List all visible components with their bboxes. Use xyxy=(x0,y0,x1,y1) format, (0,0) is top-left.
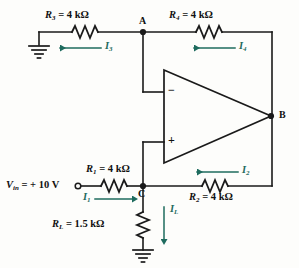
current-label-i1: I1 xyxy=(83,192,91,204)
label-r2-value: 4 kΩ xyxy=(211,191,233,202)
node-label-a: A xyxy=(139,16,146,26)
current-label-i3-sub: 3 xyxy=(109,45,113,53)
label-vin-name: V xyxy=(6,179,13,190)
circuit-schematic-svg xyxy=(0,0,299,268)
current-label-il-sub: L xyxy=(174,208,178,216)
label-r4-name: R xyxy=(169,9,176,20)
label-r3: R3 = 4 kΩ xyxy=(45,10,89,22)
current-label-i2: I2 xyxy=(242,165,250,177)
label-r1-eq: = xyxy=(99,163,105,174)
current-label-i4: I4 xyxy=(239,41,247,53)
label-r4-sub: 4 xyxy=(176,14,180,22)
label-vin: Vin = + 10 V xyxy=(6,180,59,192)
resistor-r4-body xyxy=(196,26,222,38)
current-label-i1-sub: 1 xyxy=(87,196,91,204)
label-vin-sub: in xyxy=(13,184,19,192)
label-r4-eq: = xyxy=(182,9,188,20)
opamp-noninverting-sign: + xyxy=(168,134,175,146)
resistor-r3-body xyxy=(72,26,98,38)
label-r4: R4 = 4 kΩ xyxy=(169,10,213,22)
ground-symbol-left xyxy=(29,46,49,58)
node-dot-a xyxy=(140,29,146,35)
label-rl-sub: L xyxy=(59,223,63,231)
label-r3-value: 4 kΩ xyxy=(67,9,89,20)
label-rl: RL = 1.5 kΩ xyxy=(52,219,105,231)
current-label-i4-sub: 4 xyxy=(243,45,247,53)
opamp-triangle xyxy=(164,70,271,163)
resistor-rl-body xyxy=(137,212,149,238)
label-r4-value: 4 kΩ xyxy=(191,9,213,20)
label-r2-name: R xyxy=(189,191,196,202)
label-r2-eq: = xyxy=(202,191,208,202)
label-r1-sub: 1 xyxy=(93,168,97,176)
circuit-diagram: R3 = 4 kΩ R4 = 4 kΩ R1 = 4 kΩ R2 = 4 kΩ … xyxy=(0,0,299,268)
label-r1-value: 4 kΩ xyxy=(108,163,130,174)
node-label-b: B xyxy=(279,110,286,120)
label-rl-eq: = xyxy=(66,218,72,229)
label-rl-value: 1.5 kΩ xyxy=(75,218,105,229)
label-r2-sub: 2 xyxy=(196,196,200,204)
label-vin-value: + 10 V xyxy=(30,179,59,190)
node-label-c: C xyxy=(138,189,145,199)
label-vin-eq: = xyxy=(21,179,27,190)
label-r1: R1 = 4 kΩ xyxy=(86,164,130,176)
current-label-i2-sub: 2 xyxy=(246,169,250,177)
current-label-i3: I3 xyxy=(105,41,113,53)
label-r2: R2 = 4 kΩ xyxy=(189,192,233,204)
vin-terminal-node xyxy=(75,183,81,189)
label-r3-sub: 3 xyxy=(52,14,56,22)
resistor-r1-body xyxy=(101,180,127,192)
node-dot-b xyxy=(268,113,274,119)
opamp-inverting-sign: − xyxy=(168,84,175,96)
current-label-il: IL xyxy=(170,204,178,216)
label-r3-name: R xyxy=(45,9,52,20)
label-r1-name: R xyxy=(86,163,93,174)
label-r3-eq: = xyxy=(58,9,64,20)
ground-symbol-load xyxy=(133,250,153,262)
label-rl-name: R xyxy=(52,218,59,229)
